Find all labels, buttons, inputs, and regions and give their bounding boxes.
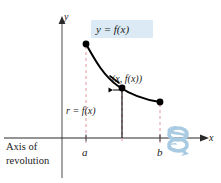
rotation-arrow-icon <box>167 126 189 156</box>
axis-of-revolution-line2: revolution <box>6 155 49 166</box>
radius-pointer-icon <box>109 88 114 93</box>
axis-of-revolution-line1: Axis of <box>6 141 37 152</box>
x-tick-label-b: b <box>157 146 163 159</box>
radius-bracket <box>113 90 122 138</box>
solid-of-revolution-figure: y = f(x) (x, f(x)) r = f(x) Axis ofrevol… <box>0 0 221 183</box>
curve-point-interior <box>119 85 126 92</box>
function-equation-label: y = f(x) <box>96 23 129 36</box>
x-tick-label-a: a <box>82 146 88 159</box>
point-coordinate-label: (x, f(x)) <box>112 73 142 85</box>
x-axis-label: x <box>209 132 213 144</box>
arrowhead-right-icon <box>200 134 209 141</box>
radius-label: r = f(x) <box>66 105 96 117</box>
y-axis-label: y <box>64 11 68 23</box>
curve-point-left <box>83 41 90 48</box>
curve-point-right <box>157 99 164 106</box>
axis-of-revolution-label: Axis ofrevolution <box>6 140 49 168</box>
